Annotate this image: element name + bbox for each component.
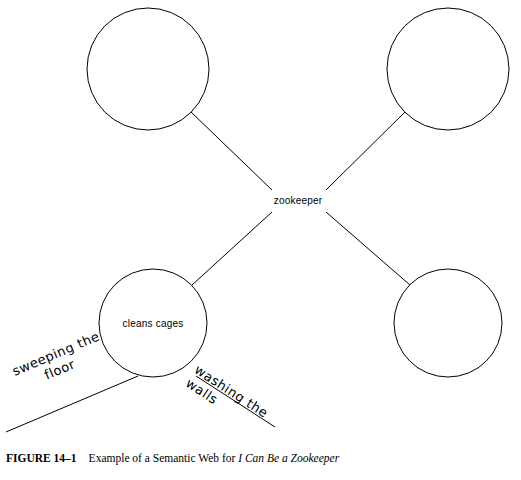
semantic-web-diagram: zookeeper cleans cages sweeping the floo… xyxy=(0,0,521,446)
figure-caption: FIGURE 14–1Example of a Semantic Web for… xyxy=(6,452,516,464)
diagram-canvas xyxy=(0,0,521,446)
top-right-circle xyxy=(387,8,509,130)
bottom-right-circle xyxy=(394,269,502,377)
figure-caption-lead: Example of a Semantic Web for xyxy=(89,452,239,464)
connector-bottom-left xyxy=(192,212,272,285)
connector-top-right xyxy=(326,112,405,190)
connector-bottom-right xyxy=(326,212,410,285)
bottom-left-node-label: cleans cages xyxy=(123,318,184,329)
connector-top-left xyxy=(191,112,272,190)
figure-number: FIGURE 14–1 xyxy=(6,452,77,464)
center-node-label: zookeeper xyxy=(274,195,323,206)
figure-caption-title: I Can Be a Zookeeper xyxy=(238,452,339,464)
top-left-circle xyxy=(87,8,209,130)
